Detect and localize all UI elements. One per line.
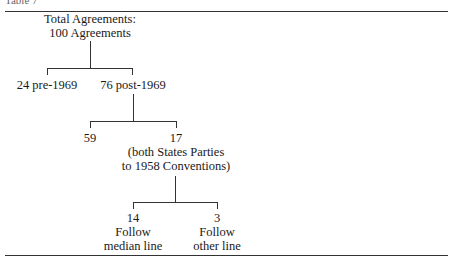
count-59-node: 59 — [84, 131, 97, 145]
pre-1969-node: 24 pre-1969 — [17, 78, 78, 92]
count-59-label: 59 — [84, 131, 97, 145]
post-1969-node: 76 post-1969 — [100, 78, 166, 92]
pre-1969-label: 24 pre-1969 — [17, 78, 78, 92]
post-1969-left-tick — [90, 121, 91, 128]
post-1969-label: 76 post-1969 — [100, 78, 166, 92]
root-branch-left-tick — [47, 68, 48, 75]
count-17-stem — [175, 176, 176, 202]
count-17-label: 17 — [122, 131, 230, 145]
median-line-label-line1: Follow — [104, 225, 163, 239]
median-line-label-line2: median line — [104, 239, 163, 253]
median-line-node: 14 Follow median line — [104, 211, 163, 253]
count-17-note-line2: to 1958 Conventions) — [122, 159, 230, 173]
count-17-note-line1: (both States Parties — [122, 145, 230, 159]
root-stem — [90, 41, 91, 68]
other-line-label-line2: other line — [193, 239, 241, 253]
count-17-right-tick — [217, 202, 218, 209]
other-line-count: 3 — [193, 211, 241, 225]
count-17-left-tick — [133, 202, 134, 209]
other-line-node: 3 Follow other line — [193, 211, 241, 253]
root-label: Total Agreements: — [44, 12, 136, 26]
count-17-node: 17 (both States Parties to 1958 Conventi… — [122, 131, 230, 173]
post-1969-stem — [133, 94, 134, 121]
other-line-label-line1: Follow — [193, 225, 241, 239]
root-branch-bar — [47, 68, 133, 69]
root-count: 100 Agreements — [44, 26, 136, 40]
root-branch-right-tick — [132, 68, 133, 75]
post-1969-branch-bar — [90, 121, 177, 122]
bottom-rule — [5, 255, 448, 256]
table-caption: Table 7 — [5, 0, 38, 6]
median-line-count: 14 — [104, 211, 163, 225]
count-17-branch-bar — [133, 202, 218, 203]
post-1969-right-tick — [176, 121, 177, 128]
root-node: Total Agreements: 100 Agreements — [44, 12, 136, 40]
